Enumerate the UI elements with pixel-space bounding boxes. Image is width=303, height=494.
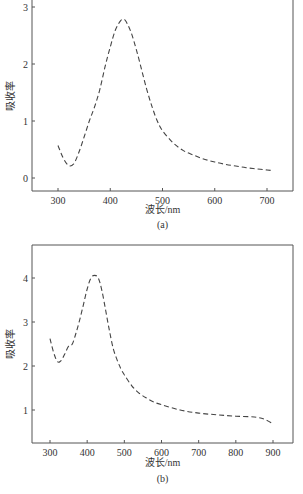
x-tick-label: 800: [228, 447, 243, 458]
y-tick-label: 3: [23, 317, 28, 328]
x-tick-label: 300: [51, 195, 66, 206]
y-tick-label: 1: [23, 405, 28, 416]
x-tick-label: 400: [103, 195, 118, 206]
y-tick-label: 2: [23, 361, 28, 372]
x-tick-label: 600: [207, 195, 222, 206]
y-tick-label: 2: [23, 59, 28, 70]
x-tick-label: 400: [80, 447, 95, 458]
y-tick-label: 1: [23, 116, 28, 127]
chart-a: 3004005006007000123波长/nm吸收率(a): [4, 0, 293, 231]
y-axis-label: 吸收率: [4, 81, 16, 111]
absorbance-curve: [50, 275, 273, 424]
figure: 3004005006007000123波长/nm吸收率(a) 300400500…: [0, 0, 303, 494]
x-axis-label: 波长/nm: [145, 456, 181, 468]
y-tick-label: 0: [23, 173, 28, 184]
x-tick-label: 900: [266, 447, 281, 458]
y-tick-label: 3: [23, 2, 28, 13]
x-axis-label: 波长/nm: [145, 203, 181, 215]
chart-b: 3004005006007008009001234波长/nm吸收率(b): [4, 245, 293, 485]
chart-caption: (a): [157, 219, 168, 231]
y-axis-label: 吸收率: [4, 329, 16, 359]
x-tick-label: 700: [260, 195, 275, 206]
x-tick-label: 700: [191, 447, 206, 458]
absorbance-curve: [58, 19, 272, 170]
chart-caption: (b): [157, 473, 169, 485]
x-tick-label: 300: [43, 447, 58, 458]
y-tick-label: 4: [23, 273, 28, 284]
x-tick-label: 500: [117, 447, 132, 458]
